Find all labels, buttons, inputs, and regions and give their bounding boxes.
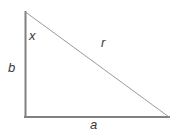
- angle-label-x: x: [29, 29, 36, 42]
- side-label-r: r: [101, 36, 105, 49]
- triangle-figure: [0, 0, 176, 136]
- geometry-diagram: x b r a: [0, 0, 176, 136]
- side-label-b: b: [8, 61, 15, 74]
- side-label-a: a: [90, 118, 97, 131]
- hypotenuse-line: [26, 12, 170, 117]
